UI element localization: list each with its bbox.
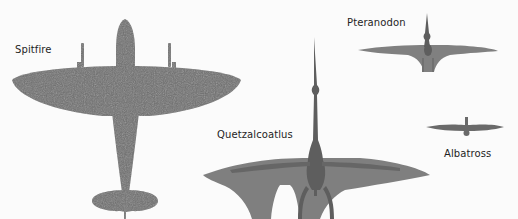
quetzalcoatlus-silhouette <box>203 37 430 219</box>
albatross-silhouette <box>426 117 504 136</box>
size-comparison-diagram: Spitfire Quetzalcoatlus Pteranodon Albat… <box>0 0 518 219</box>
label-albatross: Albatross <box>444 148 491 159</box>
label-pteranodon: Pteranodon <box>347 17 406 28</box>
label-spitfire: Spitfire <box>15 44 52 55</box>
label-quetzalcoatlus: Quetzalcoatlus <box>217 129 293 140</box>
silhouettes <box>0 0 518 219</box>
